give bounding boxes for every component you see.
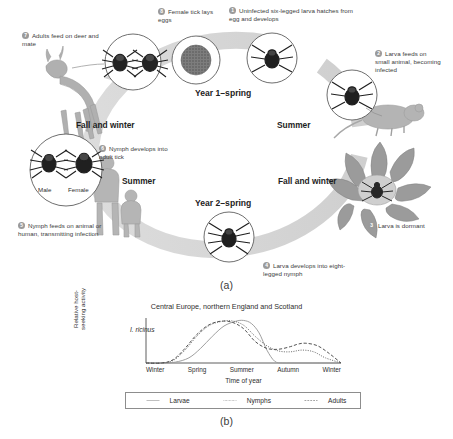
circle-egg-mass bbox=[172, 36, 220, 84]
legend-label-nymphs: Nymphs bbox=[247, 397, 271, 404]
step-2-note: 2Larva feeds on small animal, becoming i… bbox=[375, 50, 441, 75]
step-3-badge: 3 bbox=[368, 222, 375, 229]
circle-larva-hatched bbox=[247, 33, 297, 83]
chart-plot-area bbox=[0, 296, 453, 371]
x-tick-0: Winter bbox=[146, 366, 164, 373]
step-7-text: Adults feed on deer and mate bbox=[22, 32, 99, 47]
label-female: Female bbox=[68, 186, 89, 193]
label-male: Male bbox=[38, 186, 51, 193]
legend-item-larvae: Larvae bbox=[140, 397, 190, 404]
step-2-text: Larva feeds on small animal, becoming in… bbox=[375, 50, 441, 73]
x-axis-label: Time of year bbox=[146, 377, 341, 384]
x-tick-2: Summer bbox=[230, 366, 254, 373]
legend-item-adults: Adults bbox=[298, 397, 346, 404]
legend-swatch-adults bbox=[298, 400, 324, 401]
year-2-spring-label: Year 2–spring bbox=[195, 198, 251, 208]
year-1-spring-label: Year 1–spring bbox=[195, 88, 251, 98]
legend-label-larvae: Larvae bbox=[170, 397, 190, 404]
series-line-larvae bbox=[146, 320, 341, 363]
legend-item-nymphs: Nymphs bbox=[217, 397, 271, 404]
legend-swatch-larvae bbox=[140, 400, 166, 401]
circle-larva-feeding bbox=[327, 70, 377, 120]
panel-b-caption: (b) bbox=[0, 415, 453, 427]
series-line-adults bbox=[146, 321, 341, 363]
season-summer-right: Summer bbox=[277, 120, 311, 130]
step-3-note: 3Larva is dormant bbox=[368, 222, 430, 230]
circle-nymph bbox=[204, 212, 254, 262]
step-8-badge: 8 bbox=[158, 8, 165, 15]
step-2-badge: 2 bbox=[375, 50, 382, 57]
step-1-badge: 1 bbox=[229, 7, 236, 14]
step-6-badge: 6 bbox=[99, 145, 106, 152]
series-line-nymphs bbox=[146, 321, 341, 364]
step-1-text: Uninfected six-legged larva hatches from… bbox=[229, 7, 353, 22]
step-6-text: Nymph develops into adult tick bbox=[99, 145, 168, 160]
x-tick-1: Spring bbox=[188, 366, 206, 373]
x-tick-3: Autumn bbox=[277, 366, 299, 373]
step-4-badge: 4 bbox=[263, 262, 270, 269]
step-4-text: Larva develops into eight-legged nymph bbox=[263, 262, 345, 277]
step-8-note: 8Female tick lays eggs bbox=[158, 8, 220, 24]
step-3-text: Larva is dormant bbox=[378, 222, 425, 229]
tick-life-cycle-diagram: 7Adults feed on deer and mate 8Female ti… bbox=[0, 0, 453, 300]
chart-legend: Larvae Nymphs Adults bbox=[125, 392, 361, 409]
step-1-note: 1Uninfected six-legged larva hatches fro… bbox=[229, 7, 359, 23]
season-fall-winter-left: Fall and winter bbox=[76, 120, 135, 130]
panel-a-caption: (a) bbox=[0, 279, 453, 291]
x-axis-ticks: Winter Spring Summer Autumn Winter bbox=[146, 366, 341, 373]
step-4-note: 4Larva develops into eight-legged nymph bbox=[263, 262, 351, 278]
legend-label-adults: Adults bbox=[328, 397, 346, 404]
host-seeking-activity-chart: Central Europe, northern England and Sco… bbox=[0, 296, 453, 439]
step-7-badge: 7 bbox=[22, 32, 29, 39]
step-5-note: 5Nymph feeds on animal or human, transmi… bbox=[18, 222, 110, 238]
season-summer-left: Summer bbox=[122, 176, 156, 186]
step-5-badge: 5 bbox=[18, 222, 25, 229]
x-tick-4: Winter bbox=[323, 366, 341, 373]
season-fall-winter-right: Fall and winter bbox=[278, 176, 337, 186]
legend-swatch-nymphs bbox=[217, 400, 243, 401]
step-8-text: Female tick lays eggs bbox=[158, 8, 213, 23]
step-7-note: 7Adults feed on deer and mate bbox=[22, 32, 106, 48]
step-5-text: Nymph feeds on animal or human, transmit… bbox=[18, 222, 101, 237]
step-6-note: 6Nymph develops into adult tick bbox=[99, 145, 169, 161]
circle-adult-pair-mating bbox=[102, 34, 168, 90]
